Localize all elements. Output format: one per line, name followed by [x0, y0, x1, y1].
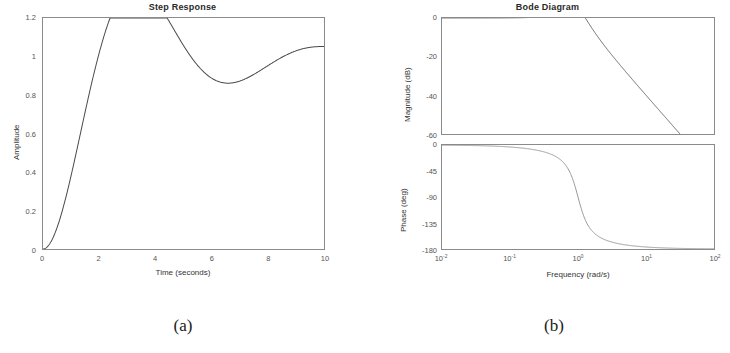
step-ytick-5: 1: [16, 51, 36, 60]
step-yaxis-label: Amplitude: [12, 124, 21, 160]
bode-phase-ytick-1: -45: [411, 166, 437, 175]
bode-mag-ytick-2: -40: [415, 91, 437, 100]
step-response-curve: [43, 18, 324, 249]
step-xtick-4: 8: [266, 254, 270, 263]
bode-xtick-3: 101: [641, 254, 652, 263]
bode-xtick-2-exponent: 0: [581, 254, 584, 259]
bode-phase-curve: [442, 145, 714, 249]
bode-diagram-panel: Bode Diagram 0 -20 -40 -60 0 -45 -90 -13…: [365, 0, 730, 300]
bode-phase-axis-label: Phase (deg): [399, 188, 408, 232]
step-xaxis-label: Time (seconds): [156, 268, 211, 277]
figure-container: Step Response 0 0.2 0.4 0.6 0.8 1 1.2 0 …: [0, 0, 730, 353]
bode-phase-axes: [441, 144, 715, 250]
step-ytick-6: 1.2: [16, 13, 36, 22]
step-response-panel: Step Response 0 0.2 0.4 0.6 0.8 1 1.2 0 …: [0, 0, 365, 300]
step-ytick-0: 0: [16, 246, 36, 255]
bode-mag-ytick-1: -20: [415, 52, 437, 61]
step-response-axes: [42, 17, 325, 250]
bode-xtick-3-exponent: 1: [649, 254, 652, 259]
bode-phase-ytick-4: -180: [411, 246, 437, 255]
bode-xtick-0: 10-2: [435, 254, 448, 263]
bode-mag-ytick-3: -60: [415, 131, 437, 140]
bode-phase-ytick-3: -135: [411, 219, 437, 228]
bode-xtick-1: 10-1: [503, 254, 516, 263]
subfigure-caption-a: (a): [123, 316, 243, 336]
step-xtick-1: 2: [97, 254, 101, 263]
bode-xtick-0-exponent: -2: [443, 254, 447, 259]
bode-magnitude-axes: [441, 17, 715, 135]
step-response-title: Step Response: [0, 2, 365, 12]
bode-xtick-1-exponent: -1: [512, 254, 516, 259]
bode-xtick-4-exponent: 2: [718, 254, 721, 259]
bode-xtick-2: 100: [572, 254, 583, 263]
subfigure-caption-b: (b): [494, 316, 614, 336]
step-ytick-1: 0.2: [16, 207, 36, 216]
step-xtick-5: 10: [321, 254, 329, 263]
step-xtick-3: 6: [210, 254, 214, 263]
bode-phase-ytick-0: 0: [411, 140, 437, 149]
step-xtick-2: 4: [153, 254, 157, 263]
step-xtick-0: 0: [40, 254, 44, 263]
bode-phase-ytick-2: -90: [411, 193, 437, 202]
bode-mag-ytick-0: 0: [415, 13, 437, 22]
step-ytick-4: 0.8: [16, 90, 36, 99]
step-ytick-2: 0.4: [16, 168, 36, 177]
bode-diagram-title: Bode Diagram: [365, 2, 730, 12]
bode-xtick-4: 102: [709, 254, 720, 263]
bode-xaxis-label: Frequency (rad/s): [546, 270, 609, 279]
bode-magnitude-axis-label: Magnitude (dB): [403, 67, 412, 122]
bode-magnitude-curve: [442, 18, 714, 134]
